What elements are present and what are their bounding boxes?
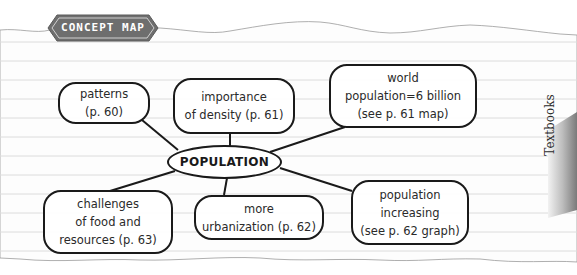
concept-map-badge: CONCEPT MAP — [47, 14, 159, 42]
node-text-line: of density (p. 61) — [185, 106, 284, 124]
side-tab-label[interactable]: Textbooks — [543, 90, 557, 160]
node-text-line: challenges — [77, 195, 139, 213]
node-text-line: urbanization (p. 62) — [202, 218, 316, 236]
node-text-line: (see p. 62 graph) — [360, 222, 459, 240]
node-text-line: population — [379, 186, 440, 204]
node-text-line: patterns — [80, 85, 128, 103]
node-population-increasing: population increasing (see p. 62 graph) — [351, 180, 469, 245]
node-importance-of-density: importance of density (p. 61) — [173, 78, 295, 134]
node-text-line: importance — [201, 88, 267, 106]
node-text-line: population=6 billion — [345, 87, 461, 105]
concept-map-page: CONCEPT MAP patterns (p. 60) importance … — [0, 0, 577, 275]
node-text-line: of food and — [75, 213, 140, 231]
node-challenges: challenges of food and resources (p. 63) — [43, 190, 173, 254]
node-patterns: patterns (p. 60) — [58, 82, 150, 124]
center-node-population: POPULATION — [167, 145, 282, 179]
node-more-urbanization: more urbanization (p. 62) — [194, 195, 324, 240]
node-text-line: world — [387, 69, 419, 87]
node-text-line: more — [244, 200, 274, 218]
node-world-population: world population=6 billion (see p. 61 ma… — [329, 64, 477, 128]
badge-label: CONCEPT MAP — [47, 14, 159, 42]
node-text-line: increasing — [380, 204, 439, 222]
node-text-line: resources (p. 63) — [59, 231, 157, 249]
node-text-line: (see p. 61 map) — [357, 105, 448, 123]
node-text-line: (p. 60) — [85, 103, 123, 121]
